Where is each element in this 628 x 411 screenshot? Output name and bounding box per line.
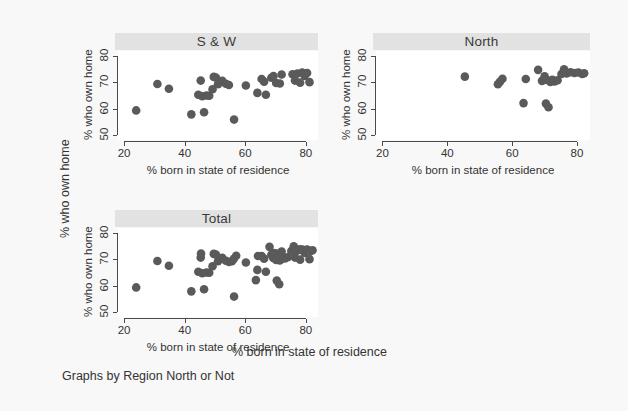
y-tick [371,82,375,83]
x-tick [124,142,125,146]
x-tick [245,319,246,323]
x-tick [447,142,448,146]
y-tick-label: 70 [356,73,368,89]
panel-x-axis-title: % born in state of residence [78,164,358,176]
y-tick-label: 60 [356,100,368,116]
panel-title-north: North [373,33,590,50]
x-tick [382,142,383,146]
y-tick [113,109,117,110]
y-tick [113,312,117,313]
x-tick-label: 20 [109,147,139,159]
x-axis-line [382,141,577,142]
x-tick-label: 40 [432,147,462,159]
x-tick-label: 60 [230,324,260,336]
y-tick-label: 80 [356,47,368,63]
x-tick-label: 40 [170,147,200,159]
y-tick-label: 70 [98,73,110,89]
y-tick [113,82,117,83]
x-tick-label: 80 [562,147,592,159]
x-tick-label: 20 [367,147,397,159]
y-tick [113,286,117,287]
figure-canvas: % who own home S & W5060708020406080% bo… [0,0,628,411]
x-tick-label: 20 [109,324,139,336]
y-tick [113,56,117,57]
y-tick [371,56,375,57]
y-tick-label: 60 [98,100,110,116]
y-tick [371,109,375,110]
x-axis-line [124,318,306,319]
outer-y-axis-label: % who own home [58,139,72,238]
y-tick-label: 50 [356,126,368,142]
y-axis-line [117,233,118,312]
y-tick [113,233,117,234]
x-tick-label: 80 [291,147,321,159]
y-tick-label: 80 [98,47,110,63]
panel-x-axis-title: % born in state of residence [336,164,628,176]
y-tick-label: 70 [98,250,110,266]
x-tick [245,142,246,146]
x-tick-label: 40 [170,324,200,336]
outer-x-axis-label: % born in state of residence [232,345,387,359]
x-tick [512,142,513,146]
panel-y-axis-title: % who own home [82,49,94,140]
x-tick [306,142,307,146]
x-tick-label: 60 [497,147,527,159]
x-axis-line [124,141,306,142]
x-tick [185,319,186,323]
y-tick-label: 50 [98,126,110,142]
x-tick [577,142,578,146]
panel-title-s-w: S & W [115,33,318,50]
x-tick [306,319,307,323]
x-tick [185,142,186,146]
plot-area [118,228,318,317]
y-tick [113,135,117,136]
y-tick-label: 80 [98,224,110,240]
y-tick-label: 50 [98,303,110,319]
graph-note: Graphs by Region North or Not [62,369,234,383]
plot-area [118,51,318,140]
x-tick [124,319,125,323]
panel-y-axis-title: % who own home [82,226,94,317]
y-tick-label: 60 [98,277,110,293]
y-tick [113,259,117,260]
plot-area [376,51,590,140]
y-tick [371,135,375,136]
y-axis-line [117,56,118,135]
panel-title-total: Total [115,210,318,227]
x-tick-label: 60 [230,147,260,159]
y-axis-line [375,56,376,135]
panel-y-axis-title: % who own home [340,49,352,140]
x-tick-label: 80 [291,324,321,336]
